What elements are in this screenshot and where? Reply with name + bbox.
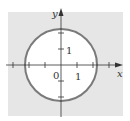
y-tick-label: 1 — [66, 45, 72, 56]
circle-diagram: y x 0 1 1 — [0, 0, 130, 121]
x-tick-label: 1 — [75, 71, 81, 82]
y-axis-label: y — [51, 8, 58, 19]
origin-label: 0 — [53, 70, 59, 81]
x-axis-label: x — [117, 68, 123, 79]
